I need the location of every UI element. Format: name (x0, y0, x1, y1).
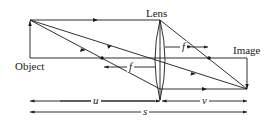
object-distance-label: u (91, 95, 101, 106)
ray-chief (30, 20, 247, 89)
total-distance-label: s (141, 106, 149, 117)
ray-direction-arrow (202, 87, 207, 91)
focal-length-left-label: f (127, 61, 134, 72)
object-label: Object (15, 61, 44, 72)
lens-label: Lens (146, 8, 167, 19)
ray-direction-arrow (107, 45, 112, 49)
focal-length-right-label: f (180, 41, 187, 52)
focal-point-front (100, 56, 104, 60)
image-label: Image (233, 45, 260, 56)
ray-focal-in (30, 20, 160, 89)
focal-point-back (207, 56, 211, 60)
image-distance-label: v (200, 95, 209, 106)
ray-direction-arrow (93, 18, 98, 22)
